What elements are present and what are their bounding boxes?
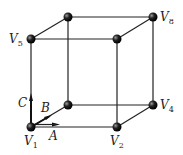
edge bbox=[117, 105, 153, 127]
label-v1: V1 bbox=[24, 134, 38, 150]
label-vector-c: C bbox=[18, 96, 27, 110]
vertex-v4 bbox=[149, 101, 158, 110]
label-v4: V4 bbox=[160, 98, 174, 114]
vertex-front-top-right bbox=[113, 35, 122, 44]
vertex-v2 bbox=[113, 123, 122, 132]
edge bbox=[117, 17, 153, 39]
label-vector-a: A bbox=[48, 129, 58, 143]
label-v8: V8 bbox=[160, 10, 174, 26]
label-v2: V2 bbox=[110, 134, 124, 150]
label-vector-b: B bbox=[40, 101, 50, 115]
vertex-back-bottom-left bbox=[64, 101, 73, 110]
vertex-back-top-left bbox=[64, 13, 73, 22]
vertex-v8 bbox=[149, 13, 158, 22]
vertex-v1 bbox=[27, 123, 36, 132]
label-v5: V5 bbox=[9, 32, 23, 48]
cube-diagram: V1 V2 V4 V5 V8 A B C bbox=[0, 0, 183, 155]
edge bbox=[31, 17, 68, 39]
vertex-v5 bbox=[27, 35, 36, 44]
